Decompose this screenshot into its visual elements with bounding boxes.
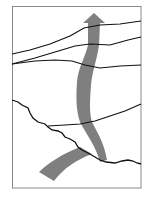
diagram-svg bbox=[0, 0, 149, 204]
diagram-canvas bbox=[0, 0, 149, 204]
